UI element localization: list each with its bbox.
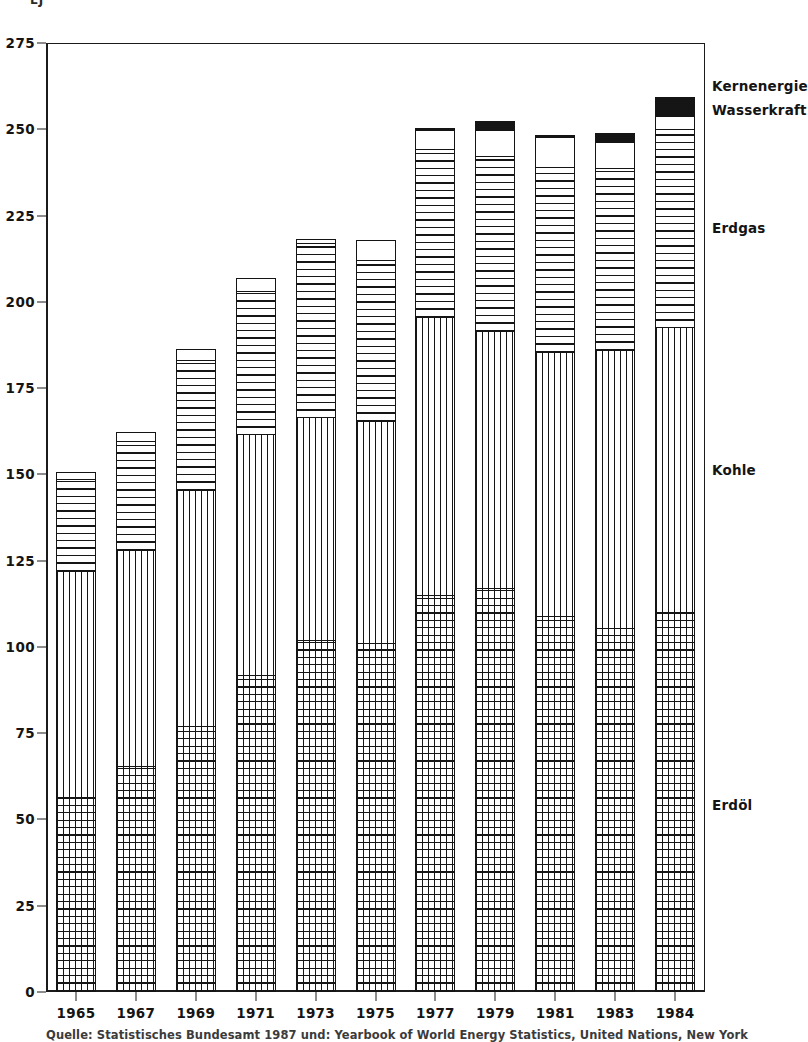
x-axis-tick-label: 1975 [356,1005,395,1021]
bar-segment-erdl-1977 [415,595,455,992]
x-axis-tick-mark [375,992,376,1001]
x-axis-tick-mark [75,992,76,1001]
bar-segment-erdgas-1975 [356,260,396,422]
x-axis-tick-mark [195,992,196,1001]
bar-segment-kohle-1975 [356,421,396,645]
x-axis-tick-label: 1981 [536,1005,575,1021]
bar-segment-kohle-1973 [296,417,336,641]
x-axis-tick-mark [435,992,436,1001]
bar-segment-erdl-1984 [655,612,695,992]
bar-1983 [595,135,635,992]
y-axis-tick-mark [37,646,46,647]
bar-segment-kohle-1967 [116,550,156,767]
bar-group [46,43,705,992]
bar-1969 [176,351,216,992]
x-axis-tick-label: 1983 [596,1005,635,1021]
x-axis-tick-mark [255,992,256,1001]
bar-segment-kohle-1971 [236,434,276,676]
bar-1971 [236,279,276,992]
x-axis-tick-label: 1984 [656,1005,695,1021]
x-axis-tick-mark [555,992,556,1001]
bar-segment-erdl-1973 [296,640,336,992]
y-axis-unit-label: EJ [30,0,44,7]
bar-1984 [655,98,695,992]
legend-item-erdl: Erdöl [712,797,752,813]
x-axis-tick-mark [675,992,676,1001]
bar-segment-erdl-1969 [176,726,216,992]
y-axis-tick-mark [37,905,46,906]
x-axis-tick-mark [315,992,316,1001]
bar-segment-erdgas-1984 [655,129,695,329]
source-note: Quelle: Statistisches Bundesamt 1987 und… [46,1028,786,1042]
bar-segment-wasserkraft-1981 [535,137,575,168]
bar-segment-erdgas-1977 [415,149,455,318]
y-axis-tick-mark [37,43,46,44]
legend-item-kohle: Kohle [712,462,756,478]
bar-segment-erdl-1965 [56,797,96,992]
x-axis-tick-label: 1969 [176,1005,215,1021]
bar-segment-erdgas-1979 [475,156,515,332]
y-axis-tick-mark [37,992,46,993]
legend-item-wasserkraft: Wasserkraft [712,102,807,118]
x-axis-tick-mark [135,992,136,1001]
bar-segment-erdl-1967 [116,766,156,992]
bar-segment-kohle-1965 [56,571,96,799]
bar-segment-kohle-1969 [176,490,216,728]
bar-segment-wasserkraft-1979 [475,130,515,158]
y-axis-tick-mark [37,129,46,130]
bar-segment-kohle-1981 [535,352,575,618]
x-axis-tick-mark [615,992,616,1001]
y-axis-tick-mark [37,819,46,820]
bar-segment-wasserkraft-1983 [595,142,635,170]
bar-1973 [296,240,336,992]
x-axis-tick-label: 1965 [57,1005,96,1021]
y-axis-tick-mark [37,301,46,302]
bar-segment-erdgas-1967 [116,441,156,551]
y-axis-tick-mark [37,474,46,475]
bar-segment-erdgas-1983 [595,168,635,351]
x-axis-tick-label: 1979 [476,1005,515,1021]
chart-plot-area: 0255075100125150175200225250275 19651967… [46,43,705,992]
bar-segment-kohle-1984 [655,327,695,613]
bar-segment-kohle-1983 [595,350,635,630]
bar-1975 [356,242,396,992]
y-axis-tick-mark [37,215,46,216]
bar-segment-wasserkraft-1977 [415,130,455,151]
y-axis-tick-mark [37,388,46,389]
y-axis-tick-mark [37,733,46,734]
bar-1967 [116,433,156,992]
x-axis-tick-mark [495,992,496,1001]
bar-1965 [56,473,96,992]
bar-segment-erdl-1983 [595,628,635,992]
bar-segment-kohle-1977 [415,317,455,597]
x-axis-tick-label: 1977 [416,1005,455,1021]
y-axis-tick-mark [37,560,46,561]
x-axis-tick-label: 1973 [296,1005,335,1021]
bar-segment-erdgas-1965 [56,479,96,572]
legend-item-kernenergie: Kernenergie [712,78,808,94]
bar-segment-erdgas-1971 [236,291,276,436]
bar-segment-erdgas-1969 [176,360,216,491]
bar-segment-wasserkraft-1975 [356,240,396,261]
bar-segment-erdgas-1981 [535,167,575,353]
bar-segment-erdgas-1973 [296,243,336,419]
bar-segment-erdl-1971 [236,675,276,992]
bar-segment-erdl-1981 [535,616,575,992]
x-axis-tick-label: 1967 [116,1005,155,1021]
bar-1977 [415,129,455,992]
bar-segment-kernenergie-1984 [655,97,695,118]
bar-segment-erdl-1975 [356,643,396,992]
bar-segment-kohle-1979 [475,331,515,590]
bar-1981 [535,136,575,992]
bar-1979 [475,122,515,992]
x-axis-tick-label: 1971 [236,1005,275,1021]
bar-segment-erdl-1979 [475,588,515,992]
legend-item-erdgas: Erdgas [712,220,766,236]
